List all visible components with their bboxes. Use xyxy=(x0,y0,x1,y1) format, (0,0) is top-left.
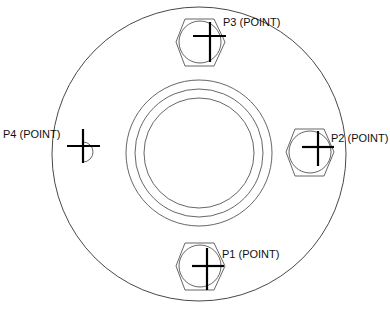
bolt-p2: P2 (POINT) xyxy=(286,129,388,176)
bore-ring-middle xyxy=(135,89,263,217)
point-label-p3: P3 (POINT) xyxy=(223,16,280,28)
outer-flange-circle xyxy=(52,7,346,301)
bolt-circle-p3 xyxy=(179,21,221,63)
bore-ring-outer xyxy=(126,80,272,226)
point-label-p2: P2 (POINT) xyxy=(331,132,388,144)
point-label-p4: P4 (POINT) xyxy=(3,128,60,140)
bolt-p3: P3 (POINT) xyxy=(176,16,280,66)
flange-diagram: P3 (POINT) P2 (POINT) P1 (POINT) P4 (POI… xyxy=(0,0,390,309)
hex-nut-p2 xyxy=(286,129,334,176)
bolt-p1: P1 (POINT) xyxy=(176,243,279,290)
bolt-circle-p2 xyxy=(289,131,331,173)
point-p4: P4 (POINT) xyxy=(3,128,100,163)
hex-nut-p3 xyxy=(176,19,225,66)
bore-ring-inner xyxy=(144,98,254,208)
point-label-p1: P1 (POINT) xyxy=(222,248,279,260)
